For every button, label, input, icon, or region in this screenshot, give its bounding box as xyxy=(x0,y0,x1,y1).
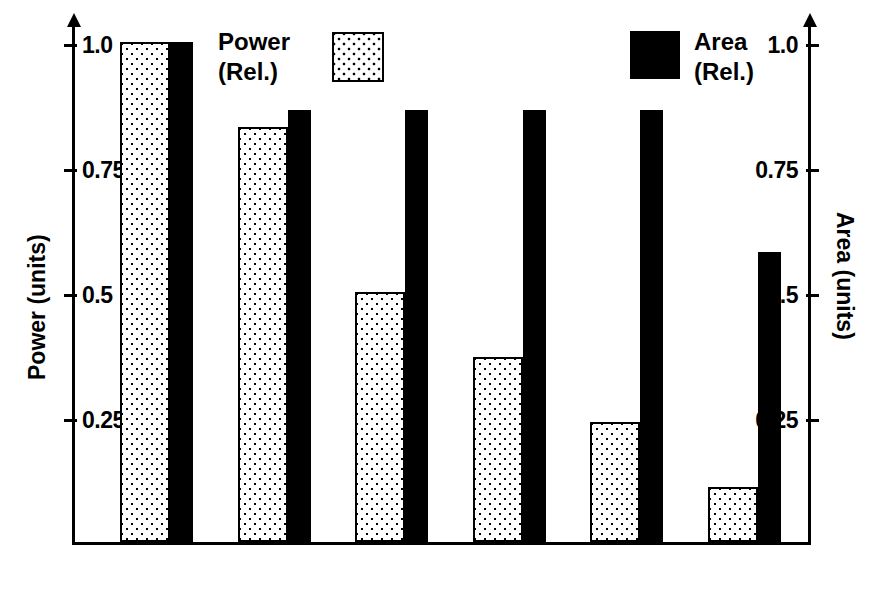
bar-area-0 xyxy=(170,42,193,542)
bar-area-4 xyxy=(640,110,663,543)
bar-power-5 xyxy=(708,487,758,542)
left-y-axis-arrow-icon xyxy=(67,13,81,27)
bar-power-3 xyxy=(473,357,523,542)
bar-power-4 xyxy=(590,422,640,542)
legend-power-label-line1: Power xyxy=(218,28,290,56)
x-category-label-2: (Loop trafo) xyxy=(348,562,523,611)
right-y-axis-line xyxy=(808,27,811,545)
solid-black-swatch-icon xyxy=(630,31,680,79)
bar-area-1 xyxy=(288,110,311,543)
dotted-pattern-swatch-icon xyxy=(332,32,384,82)
bar-area-3 xyxy=(523,110,546,543)
plot-area xyxy=(75,42,808,542)
left-y-axis-title: Power (units) xyxy=(26,234,49,380)
right-y-axis-arrow-icon xyxy=(803,13,817,27)
legend-power-label-line2: (Rel.) xyxy=(218,58,278,86)
bar-power-1 xyxy=(238,127,288,542)
bar-power-0 xyxy=(120,42,170,542)
bar-power-2 xyxy=(355,292,405,542)
bar-area-5 xyxy=(758,252,781,542)
x-category-label-4: In-place xyxy=(670,562,845,611)
bar-area-2 xyxy=(405,110,428,543)
right-y-axis-title: Area (units) xyxy=(833,212,856,340)
bar-chart-figure: 1.0 0.75 0.5 0.25 Power (units) 1.0 0.75… xyxy=(0,0,882,611)
legend-area-label-line2: (Rel.) xyxy=(694,58,754,86)
legend-area-label-line1: Area xyxy=(694,28,747,56)
x-axis-baseline xyxy=(72,542,811,545)
